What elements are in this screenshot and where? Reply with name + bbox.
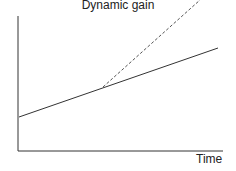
dashed-gain-line bbox=[103, 0, 200, 87]
diagram-plot bbox=[0, 0, 236, 171]
solid-growth-line bbox=[19, 48, 218, 117]
x-axis-label: Time bbox=[196, 152, 222, 166]
